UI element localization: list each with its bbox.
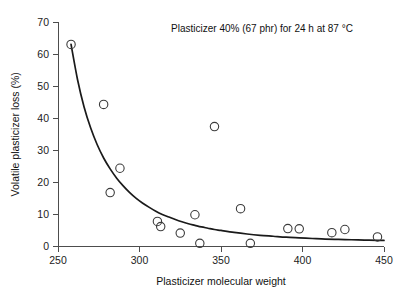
y-axis-title: Volatile plasticizer loss (%) [9, 72, 21, 196]
plot-annotation: Plasticizer 40% (67 phr) for 24 h at 87 … [171, 23, 353, 34]
chart-figure: 250300350400450 010203040506070 Plastici… [0, 0, 406, 299]
y-tick-label: 70 [37, 16, 49, 28]
trend-curve-path [71, 44, 384, 240]
y-tick-label: 60 [37, 48, 49, 60]
data-point-marker [116, 164, 124, 172]
data-point-marker [191, 211, 199, 219]
x-axis-title: Plasticizer molecular weight [156, 275, 286, 287]
plot-axes [58, 22, 384, 247]
data-point-marker [328, 229, 336, 237]
data-point-marker [99, 100, 107, 108]
x-tick-label: 250 [49, 254, 67, 266]
y-tick-label: 20 [37, 176, 49, 188]
x-axis-ticks: 250300350400450 [49, 247, 393, 266]
data-point-marker [341, 225, 349, 233]
y-tick-label: 10 [37, 208, 49, 220]
y-tick-label: 0 [43, 240, 49, 252]
x-tick-label: 300 [131, 254, 149, 266]
y-axis-ticks: 010203040506070 [37, 16, 58, 253]
data-point-marker [236, 204, 244, 212]
data-point-markers [67, 40, 382, 247]
data-point-marker [176, 229, 184, 237]
x-tick-label: 450 [375, 254, 393, 266]
x-tick-label: 350 [212, 254, 230, 266]
data-point-marker [106, 188, 114, 196]
data-point-marker [295, 225, 303, 233]
data-point-marker [284, 224, 292, 232]
x-tick-label: 400 [294, 254, 312, 266]
trend-curve [71, 44, 384, 240]
y-tick-label: 50 [37, 80, 49, 92]
data-point-marker [210, 122, 218, 130]
y-tick-label: 30 [37, 144, 49, 156]
scatter-plot: 250300350400450 010203040506070 Plastici… [0, 0, 406, 299]
y-tick-label: 40 [37, 112, 49, 124]
